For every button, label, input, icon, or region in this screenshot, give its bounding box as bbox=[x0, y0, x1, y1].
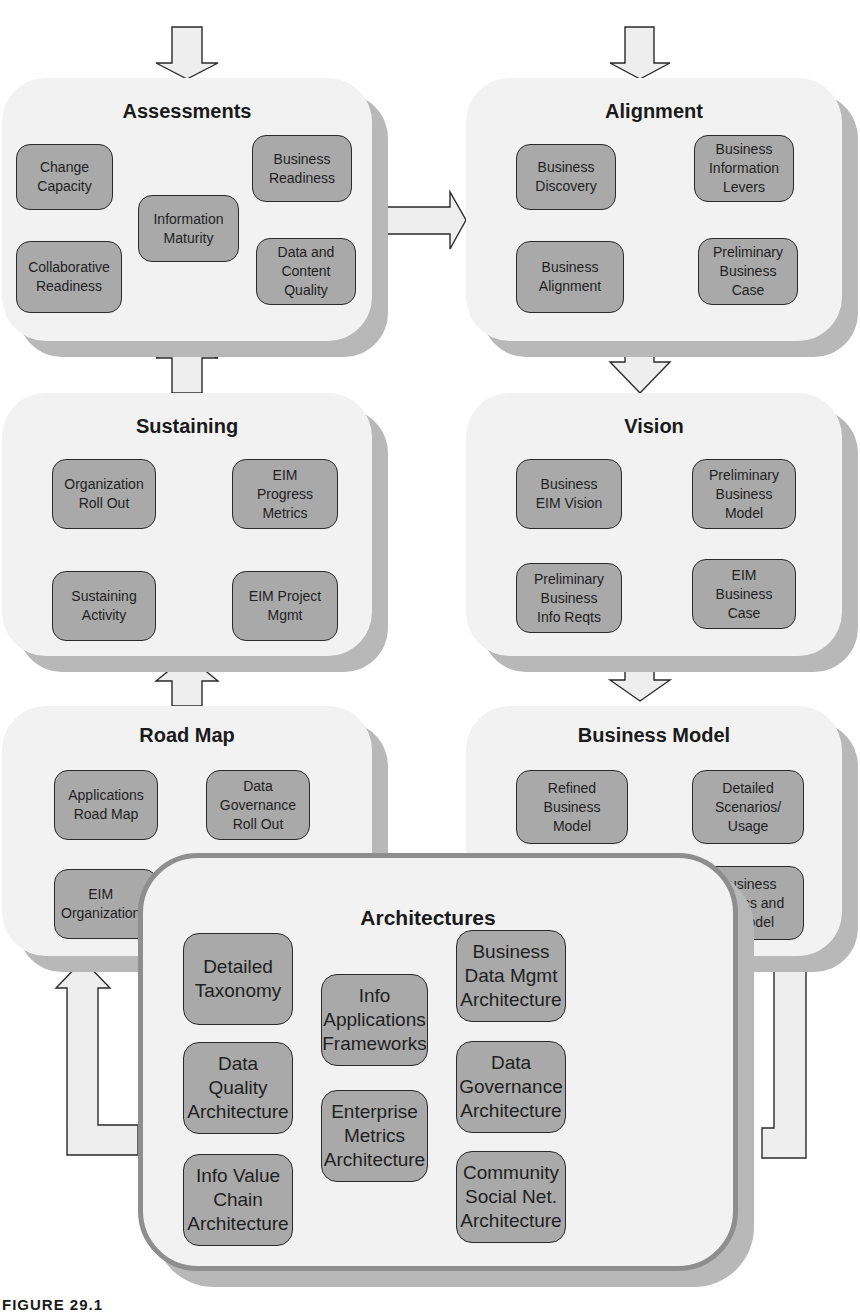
item-business-readiness[interactable]: Business Readiness bbox=[252, 135, 352, 202]
item-detailed-taxonomy[interactable]: Detailed Taxonomy bbox=[183, 933, 293, 1025]
arrow-down-into-alignment bbox=[610, 27, 670, 79]
item-detailed-scenarios-usage[interactable]: Detailed Scenarios/ Usage bbox=[692, 770, 804, 844]
item-community-social-net-architecture[interactable]: Community Social Net. Architecture bbox=[456, 1151, 566, 1243]
panel-title: Road Map bbox=[2, 724, 372, 747]
item-data-and-content-quality[interactable]: Data and Content Quality bbox=[256, 238, 356, 305]
item-collaborative-readiness[interactable]: Collaborative Readiness bbox=[16, 241, 122, 313]
arrow-down-into-assessments bbox=[156, 27, 218, 79]
arrow-up-sustaining-to-assessments bbox=[156, 342, 218, 393]
arrow-up-architectures-to-roadmap bbox=[56, 960, 138, 1155]
item-business-eim-vision[interactable]: Business EIM Vision bbox=[516, 459, 622, 529]
panel-architectures: Architectures Detailed Taxonomy Info App… bbox=[138, 853, 738, 1271]
item-applications-road-map[interactable]: Applications Road Map bbox=[54, 770, 158, 840]
item-info-applications-frameworks[interactable]: Info Applications Frameworks bbox=[321, 974, 428, 1066]
item-sustaining-activity[interactable]: Sustaining Activity bbox=[52, 571, 156, 641]
item-data-quality-architecture[interactable]: Data Quality Architecture bbox=[183, 1042, 293, 1134]
arrow-loop-business-model-to-architectures bbox=[762, 961, 806, 1158]
panel-title: Architectures bbox=[123, 906, 733, 930]
item-data-governance-roll-out[interactable]: Data Governance Roll Out bbox=[206, 770, 310, 840]
item-organization-roll-out[interactable]: Organization Roll Out bbox=[52, 459, 156, 529]
panel-sustaining: Sustaining Organization Roll Out EIM Pro… bbox=[2, 393, 372, 656]
panel-assessments: Assessments Change Capacity Business Rea… bbox=[2, 78, 372, 341]
panel-alignment: Alignment Business Discovery Business In… bbox=[466, 78, 842, 341]
panel-title: Assessments bbox=[2, 100, 372, 123]
panel-title: Business Model bbox=[466, 724, 842, 747]
item-information-maturity[interactable]: Information Maturity bbox=[138, 195, 239, 262]
figure-caption: FIGURE 29.1 bbox=[2, 1296, 103, 1313]
arrow-up-roadmap-to-sustaining bbox=[156, 656, 218, 706]
item-business-data-mgmt-architecture[interactable]: Business Data Mgmt Architecture bbox=[456, 930, 566, 1022]
item-eim-business-case[interactable]: EIM Business Case bbox=[692, 559, 796, 629]
item-business-alignment[interactable]: Business Alignment bbox=[516, 241, 624, 313]
arrow-down-alignment-to-vision bbox=[610, 343, 670, 393]
item-business-discovery[interactable]: Business Discovery bbox=[516, 144, 616, 210]
item-preliminary-business-case[interactable]: Preliminary Business Case bbox=[698, 238, 798, 305]
item-eim-project-mgmt[interactable]: EIM Project Mgmt bbox=[232, 571, 338, 641]
item-change-capacity[interactable]: Change Capacity bbox=[16, 144, 113, 210]
item-refined-business-model[interactable]: Refined Business Model bbox=[516, 770, 628, 844]
item-business-information-levers[interactable]: Business Information Levers bbox=[694, 135, 794, 202]
item-preliminary-business-model[interactable]: Preliminary Business Model bbox=[692, 459, 796, 529]
panel-title: Sustaining bbox=[2, 415, 372, 438]
arrow-down-vision-to-business-model bbox=[610, 655, 670, 701]
panel-title: Alignment bbox=[466, 100, 842, 123]
item-preliminary-business-info-reqts[interactable]: Preliminary Business Info Reqts bbox=[516, 563, 622, 633]
item-info-value-chain-architecture[interactable]: Info Value Chain Architecture bbox=[183, 1154, 293, 1246]
arrow-right-assessments-to-alignment bbox=[373, 192, 466, 249]
item-data-governance-architecture[interactable]: Data Governance Architecture bbox=[456, 1041, 566, 1133]
item-eim-progress-metrics[interactable]: EIM Progress Metrics bbox=[232, 459, 338, 529]
panel-vision: Vision Business EIM Vision Preliminary B… bbox=[466, 393, 842, 656]
item-enterprise-metrics-architecture[interactable]: Enterprise Metrics Architecture bbox=[321, 1090, 428, 1182]
panel-title: Vision bbox=[466, 415, 842, 438]
